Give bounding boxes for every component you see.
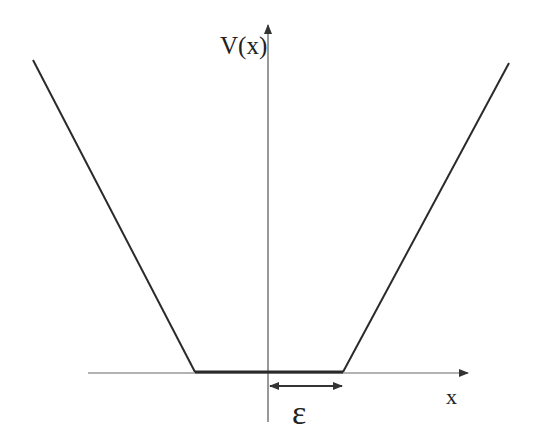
- diagram-canvas: [0, 0, 537, 445]
- x-axis-label: x: [446, 386, 457, 408]
- y-axis-label: V(x): [220, 33, 267, 58]
- epsilon-label: ε: [292, 396, 306, 430]
- potential-right-slope: [343, 63, 509, 372]
- potential-left-slope: [33, 60, 195, 372]
